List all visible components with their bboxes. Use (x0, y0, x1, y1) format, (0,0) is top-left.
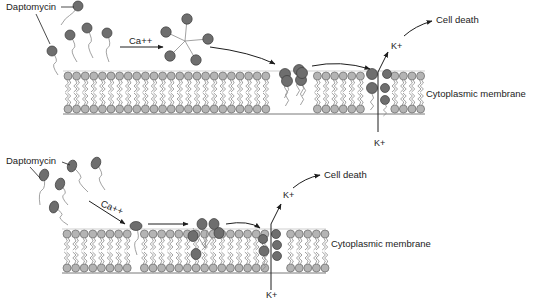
lipid-head (106, 230, 114, 238)
lipid-head (140, 230, 148, 238)
daptomycin-head (203, 34, 213, 44)
lipid-head (141, 72, 149, 80)
top-arrow-to-pore (312, 64, 370, 69)
lipid-head (391, 72, 399, 80)
bottom-daptomycin-leader-2 (30, 167, 40, 178)
lipid-head (339, 72, 347, 80)
lipid-head (219, 72, 227, 80)
daptomycin-head (214, 228, 224, 239)
lipid-head (140, 264, 148, 272)
daptomycin-head (367, 83, 378, 94)
lipid-head (81, 72, 89, 80)
lipid-head (226, 264, 234, 272)
lipid-head (133, 72, 141, 80)
lipid-head (295, 264, 303, 272)
lipid-head (64, 105, 72, 113)
lipid-head (304, 264, 312, 272)
bottom-arrow-to-pore (226, 223, 260, 228)
daptomycin-head (73, 1, 83, 11)
daptomycin-head (383, 70, 392, 79)
lipid-head (226, 230, 234, 238)
lipid-head (244, 230, 252, 238)
lipid-head (166, 230, 174, 238)
lipid-head (408, 72, 416, 80)
lipid-head (321, 264, 329, 272)
lipid-head (391, 105, 399, 113)
lipid-head (331, 72, 339, 80)
bottom-panel: Daptomycin Ca++ K+ K+ Cell death Cytopla… (6, 155, 431, 300)
lipid-head (115, 230, 123, 238)
top-calcium-label: Ca++ (129, 35, 153, 46)
lipid-head (312, 264, 320, 272)
lipid-head (227, 72, 235, 80)
lipid-head (321, 230, 329, 238)
bottom-calcium-label: Ca++ (99, 198, 125, 217)
lipid-head (63, 230, 71, 238)
daptomycin-head (272, 230, 281, 239)
lipid-head (167, 105, 175, 113)
lipid-head (287, 264, 295, 272)
daptomycin-head (65, 30, 75, 40)
daptomycin-head (259, 235, 268, 244)
bottom-cell-death-label: Cell death (324, 169, 367, 180)
daptomycin-mechanism-diagram: Daptomycin Ca++ K+ K+ Cell death Cytopla… (0, 0, 534, 304)
lipid-head (98, 105, 106, 113)
lipid-head (90, 72, 98, 80)
lipid-head (295, 230, 303, 238)
lipid-head (227, 105, 235, 113)
daptomycin-head (165, 51, 175, 61)
lipid-head (262, 105, 270, 113)
lipid-head (193, 105, 201, 113)
lipid-head (159, 105, 167, 113)
diagram-canvas: Daptomycin Ca++ K+ K+ Cell death Cytopla… (0, 0, 534, 304)
lipid-head (253, 105, 261, 113)
lipid-head (356, 105, 364, 113)
bottom-potassium-in-label: K+ (266, 290, 277, 300)
lipid-head (322, 72, 330, 80)
lipid-head (262, 72, 270, 80)
top-daptomycin-label: Daptomycin (6, 1, 56, 12)
lipid-head (253, 72, 261, 80)
daptomycin-head (197, 219, 207, 230)
lipid-head (123, 264, 131, 272)
daptomycin-head (381, 84, 390, 93)
top-daptomycin-leader-2 (36, 14, 50, 44)
lipid-tail (370, 94, 373, 110)
lipid-head (348, 72, 356, 80)
lipid-head (399, 72, 407, 80)
lipid-head (417, 105, 425, 113)
daptomycin-head (89, 156, 102, 171)
lipid-head (72, 264, 80, 272)
lipid-head (107, 105, 115, 113)
daptomycin-head (259, 246, 269, 256)
lipid-head (331, 105, 339, 113)
lipid-head (236, 105, 244, 113)
lipid-head (175, 230, 183, 238)
daptomycin-head (66, 159, 79, 173)
daptomycin-head (282, 76, 293, 87)
top-potassium-out-label: K+ (391, 41, 402, 51)
lipid-head (89, 264, 97, 272)
lipid-head (80, 264, 88, 272)
lipid-head (141, 105, 149, 113)
top-arrow-cell-death (404, 21, 432, 36)
lipid-head (97, 264, 105, 272)
lipid-head (356, 72, 364, 80)
lipid-head (124, 105, 132, 113)
lipid-head (192, 264, 200, 272)
lipid-head (244, 264, 252, 272)
daptomycin-head (191, 249, 201, 260)
lipid-head (149, 230, 157, 238)
lipid-head (184, 105, 192, 113)
lipid-head (63, 264, 71, 272)
daptomycin-head (273, 241, 282, 250)
daptomycin-head (82, 23, 92, 33)
lipid-head (176, 72, 184, 80)
lipid-head (339, 105, 347, 113)
lipid-head (107, 72, 115, 80)
lipid-head (149, 264, 157, 272)
lipid-head (175, 264, 183, 272)
lipid-head (80, 230, 88, 238)
lipid-head (89, 230, 97, 238)
lipid-head (210, 105, 218, 113)
